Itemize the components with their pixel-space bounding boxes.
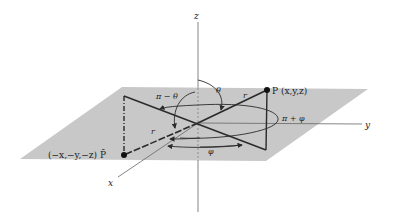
pi-minus-theta-label: π − θ [155, 92, 178, 101]
point-pbar [121, 152, 127, 158]
point-pbar-label: (−x,−y,−z) P̄ [48, 149, 106, 160]
z-axis-label: z [193, 11, 199, 21]
spherical-parity-diagram: z y x P (x,y,z) (−x,−y,−z) P̄ θ π − θ π … [0, 0, 396, 220]
point-p-label: P (x,y,z) [272, 86, 307, 96]
y-axis-label: y [364, 120, 371, 130]
x-axis-label: x [108, 178, 113, 188]
phi-label: φ [208, 147, 214, 156]
point-p [264, 87, 270, 93]
pi-plus-phi-label: π + φ [281, 114, 305, 123]
theta-label: θ [216, 86, 221, 95]
p-vertical [266, 90, 267, 150]
